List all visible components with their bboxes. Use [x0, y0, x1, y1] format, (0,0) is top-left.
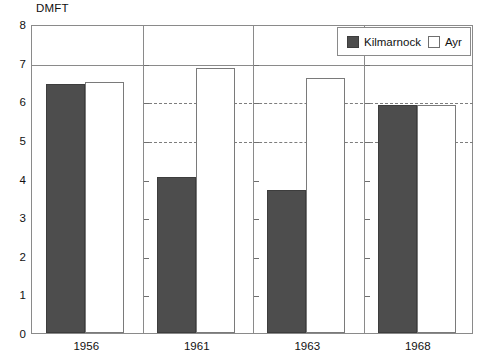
interior-tick [144, 103, 149, 104]
legend-swatch-ayr [428, 36, 440, 48]
interior-tick [254, 258, 259, 259]
x-tick-label-1968: 1968 [405, 340, 431, 352]
interior-tick [144, 181, 149, 182]
interior-tick [254, 103, 259, 104]
y-tick-label-5: 5 [0, 135, 26, 147]
bar-kilmarnock-1963 [267, 190, 306, 333]
bar-ayr-1968 [417, 105, 456, 333]
bar-kilmarnock-1968 [378, 105, 417, 333]
interior-tick [365, 219, 370, 220]
legend-swatch-kilmarnock [347, 36, 359, 48]
interior-tick [254, 219, 259, 220]
y-tick-label-2: 2 [0, 251, 26, 263]
legend-label-ayr: Ayr [445, 36, 462, 48]
y-tick-label-6: 6 [0, 96, 26, 108]
panel-divider-2 [253, 26, 254, 333]
gridline-solid-7 [32, 65, 472, 66]
bar-ayr-1961 [196, 68, 235, 333]
interior-tick [365, 142, 370, 143]
bar-kilmarnock-1956 [46, 84, 85, 333]
interior-tick [144, 142, 149, 143]
y-tick-label-4: 4 [0, 174, 26, 186]
legend-item-ayr: Ayr [428, 36, 462, 48]
interior-tick [254, 296, 259, 297]
y-axis-title: DMFT [36, 2, 69, 14]
interior-tick [365, 296, 370, 297]
x-tick-label-1961: 1961 [184, 340, 210, 352]
interior-tick [254, 142, 259, 143]
plot-area [31, 25, 473, 334]
interior-tick [144, 296, 149, 297]
bar-ayr-1963 [306, 78, 345, 333]
legend-label-kilmarnock: Kilmarnock [364, 36, 421, 48]
panel-divider-1 [143, 26, 144, 333]
interior-tick [254, 181, 259, 182]
y-tick-label-7: 7 [0, 58, 26, 70]
x-tick-label-1963: 1963 [294, 340, 320, 352]
bar-kilmarnock-1961 [157, 177, 196, 333]
chart-root: DMFT 012345678 1956196119631968 Kilmarno… [0, 0, 485, 362]
interior-tick [254, 65, 259, 66]
interior-tick [144, 219, 149, 220]
interior-tick [365, 103, 370, 104]
interior-tick [144, 258, 149, 259]
interior-tick [365, 181, 370, 182]
gridline-dashed-6-panel-3 [365, 103, 474, 104]
y-tick-label-3: 3 [0, 212, 26, 224]
interior-tick [365, 258, 370, 259]
bar-ayr-1956 [85, 82, 124, 333]
legend-item-kilmarnock: Kilmarnock [347, 36, 421, 48]
y-tick-label-0: 0 [0, 328, 26, 340]
y-tick-label-8: 8 [0, 19, 26, 31]
panel-divider-3 [364, 26, 365, 333]
interior-tick [144, 65, 149, 66]
interior-tick [365, 65, 370, 66]
x-tick-label-1956: 1956 [73, 340, 99, 352]
y-tick-label-1: 1 [0, 289, 26, 301]
chart-legend: Kilmarnock Ayr [337, 27, 471, 56]
